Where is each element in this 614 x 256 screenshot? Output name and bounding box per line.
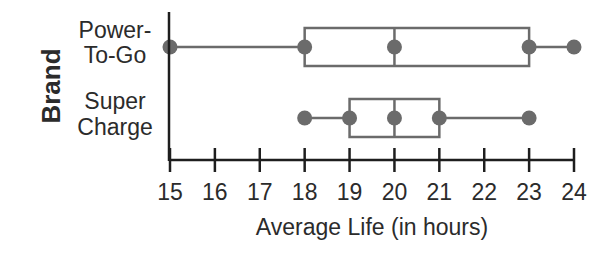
x-tick-label: 21	[427, 179, 453, 205]
x-tick-label: 19	[337, 179, 363, 205]
plot-area	[163, 28, 582, 137]
x-axis: 15161718192021222324	[157, 148, 587, 205]
box-plot-super-charge	[297, 99, 536, 137]
q1-point	[297, 40, 312, 55]
x-tick-label: 20	[382, 179, 408, 205]
box-plot-chart: Brand Power- To-Go Super Charge 15161718…	[0, 0, 614, 256]
q3-point	[432, 111, 447, 126]
max-point	[522, 111, 537, 126]
x-tick-label: 17	[247, 179, 273, 205]
category-label-power-to-go-line1: Power-	[79, 17, 152, 43]
x-tick-label: 22	[471, 179, 497, 205]
x-tick-label: 16	[202, 179, 228, 205]
median-point	[387, 40, 402, 55]
category-label-power-to-go-line2: To-Go	[84, 42, 147, 68]
x-tick-label: 23	[516, 179, 542, 205]
median-point	[387, 111, 402, 126]
category-label-super-charge-line1: Super	[84, 88, 146, 114]
category-label-super-charge-line2: Charge	[77, 114, 152, 140]
box-plot-power-to-go	[163, 28, 582, 66]
min-point	[297, 111, 312, 126]
x-tick-label: 24	[561, 179, 587, 205]
iqr-box	[305, 28, 529, 66]
q1-point	[342, 111, 357, 126]
max-point	[567, 40, 582, 55]
y-axis-title: Brand	[36, 48, 66, 123]
x-tick-label: 15	[157, 179, 183, 205]
category-labels: Power- To-Go Super Charge	[77, 17, 152, 140]
x-axis-title: Average Life (in hours)	[256, 214, 488, 240]
x-tick-label: 18	[292, 179, 318, 205]
q3-point	[522, 40, 537, 55]
